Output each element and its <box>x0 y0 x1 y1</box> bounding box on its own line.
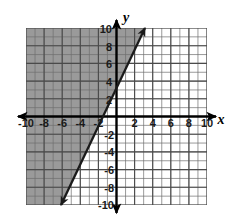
y-tick-label: 6 <box>106 58 112 70</box>
x-tick-label: -2 <box>94 117 104 129</box>
y-tick-label: 4 <box>106 76 113 88</box>
y-tick-label: 8 <box>106 41 112 53</box>
x-axis-label: x <box>217 112 225 127</box>
x-tick-label: -8 <box>39 117 49 129</box>
y-axis-label: y <box>121 10 130 25</box>
graph-figure: -10 -8 -6 -4 -2 2 4 6 8 10 10 8 6 4 2 -2… <box>0 0 240 222</box>
x-tick-label: 10 <box>201 117 213 129</box>
y-tick-label: -4 <box>104 146 115 158</box>
x-tick-label: -10 <box>18 117 34 129</box>
y-tick-label: 2 <box>106 94 112 106</box>
x-tick-label: 4 <box>150 117 157 129</box>
x-tick-label: 6 <box>168 117 174 129</box>
coordinate-plane-svg: -10 -8 -6 -4 -2 2 4 6 8 10 10 8 6 4 2 -2… <box>0 0 240 222</box>
y-tick-label: -6 <box>104 164 114 176</box>
y-tick-label: -2 <box>104 129 114 141</box>
y-tick-label: 10 <box>100 23 112 35</box>
x-tick-label: 8 <box>186 117 192 129</box>
y-tick-label: -10 <box>98 199 114 211</box>
y-tick-label: -8 <box>104 182 114 194</box>
x-tick-label: -4 <box>75 117 86 129</box>
x-tick-label: -6 <box>57 117 67 129</box>
x-tick-label: 2 <box>132 117 138 129</box>
